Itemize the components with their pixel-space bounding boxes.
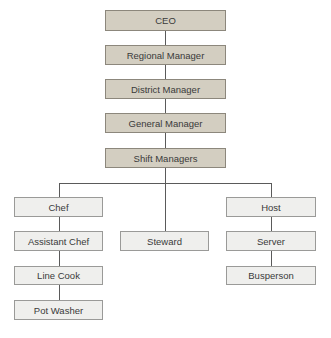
node-chef: Chef — [14, 197, 103, 217]
node-host: Host — [226, 197, 316, 217]
node-general-manager: General Manager — [105, 113, 226, 133]
node-regional-manager: Regional Manager — [105, 45, 226, 65]
node-line-cook: Line Cook — [14, 266, 103, 285]
node-steward: Steward — [120, 231, 209, 251]
node-busperson: Busperson — [226, 266, 316, 285]
connector-line — [271, 183, 272, 266]
node-assistant-chef: Assistant Chef — [14, 231, 103, 251]
node-ceo: CEO — [105, 10, 226, 31]
connector-line — [59, 183, 272, 184]
connector-line — [165, 168, 166, 231]
node-district-manager: District Manager — [105, 79, 226, 99]
node-server: Server — [226, 231, 316, 251]
node-shift-managers: Shift Managers — [105, 148, 226, 168]
node-pot-washer: Pot Washer — [14, 300, 103, 320]
